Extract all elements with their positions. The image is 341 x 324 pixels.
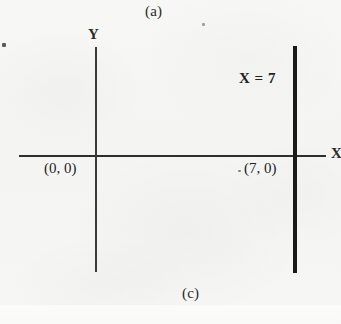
scan-speck-icon (238, 170, 241, 172)
panel-label-a: (a) (145, 3, 162, 20)
panel-label-c: (c) (182, 285, 199, 302)
x-axis-label: X (331, 145, 341, 162)
line-equation-label: X = 7 (239, 70, 276, 87)
y-axis-label: Y (88, 26, 99, 43)
vertical-line-x-equals-7 (293, 46, 297, 273)
scan-speck-icon (202, 23, 205, 26)
scan-bottom-strip (0, 305, 341, 324)
point-label-origin: (0, 0) (44, 160, 77, 177)
x-axis-line (19, 155, 326, 157)
y-axis-line (95, 47, 97, 272)
figure-canvas: (a) Y X X = 7 (0, 0) (7, 0) (c) (0, 0, 341, 324)
scan-speck-icon (2, 43, 6, 47)
point-label-x-intercept: (7, 0) (244, 160, 277, 177)
